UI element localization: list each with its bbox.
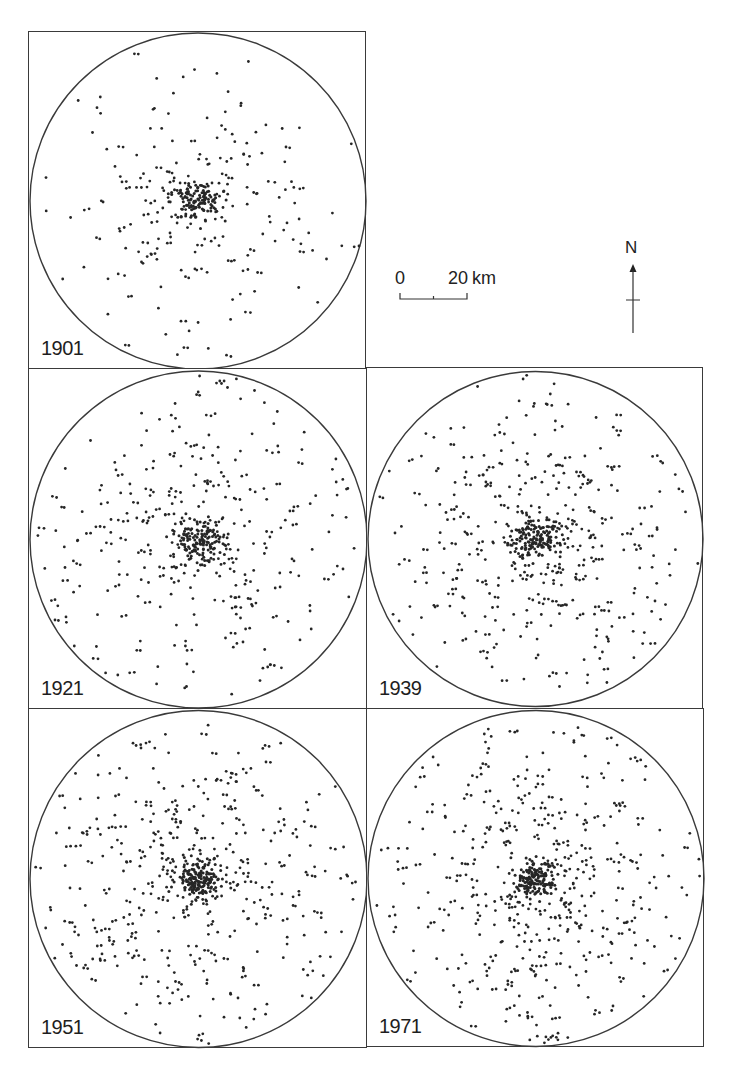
scale-start-label: 0 — [395, 268, 405, 289]
settlement-dots — [378, 374, 699, 688]
map-panel-1939: 1939 — [366, 367, 703, 709]
scale-end-label: 20 — [448, 268, 468, 289]
map-panel-1901: 1901 — [28, 31, 366, 369]
settlement-dots — [37, 375, 356, 696]
settlement-dots — [34, 724, 357, 1045]
region-boundary-circle — [30, 711, 367, 1048]
north-label: N — [625, 238, 637, 258]
settlement-dot-map — [29, 369, 368, 710]
map-panel-1971: 1971 — [366, 708, 704, 1047]
settlement-dot-map — [29, 709, 368, 1049]
north-arrow: N — [618, 238, 648, 338]
year-label: 1951 — [41, 1016, 84, 1039]
year-label: 1971 — [379, 1015, 422, 1038]
map-panel-1921: 1921 — [28, 368, 367, 709]
settlement-dot-map — [367, 368, 704, 710]
settlement-dots — [376, 726, 702, 1044]
year-label: 1901 — [41, 337, 84, 360]
year-label: 1921 — [41, 677, 84, 700]
settlement-dot-map — [29, 32, 367, 370]
map-panel-1951: 1951 — [28, 708, 367, 1048]
settlement-dots — [45, 52, 361, 358]
scale-unit-label: km — [472, 268, 496, 289]
settlement-dot-map — [367, 709, 705, 1048]
year-label: 1939 — [379, 677, 422, 700]
scale-bar: 0 20 km — [395, 268, 515, 308]
